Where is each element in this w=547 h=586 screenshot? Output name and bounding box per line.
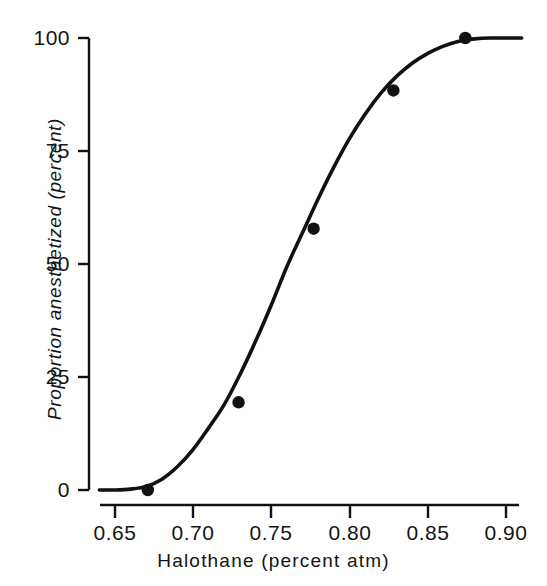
xtick-label-0-70: 0.70 — [153, 521, 233, 545]
fitted-curve — [99, 38, 521, 490]
xtick-label-0-80: 0.80 — [310, 521, 390, 545]
y-axis-title: Proportion anesthetized (percent) — [44, 69, 66, 469]
data-point — [307, 223, 319, 235]
data-point — [387, 84, 399, 96]
data-point — [459, 32, 471, 44]
data-point-markers — [142, 32, 472, 496]
xtick-label-0-90: 0.90 — [466, 521, 546, 545]
plot-canvas — [0, 0, 547, 586]
data-point — [142, 484, 154, 496]
xtick-label-0-65: 0.65 — [75, 521, 155, 545]
y-axis-ticks — [78, 38, 89, 490]
xtick-label-0-75: 0.75 — [231, 521, 311, 545]
ytick-label-100: 100 — [10, 26, 70, 50]
ytick-label-0: 0 — [10, 478, 70, 502]
xtick-label-0-85: 0.85 — [388, 521, 468, 545]
x-axis-ticks — [115, 505, 506, 518]
data-point — [232, 396, 244, 408]
x-axis-title: Halothane (percent atm) — [0, 550, 547, 572]
chart-figure: 100 75 50 25 0 0.65 0.70 0.75 0.80 0.85 … — [0, 0, 547, 586]
